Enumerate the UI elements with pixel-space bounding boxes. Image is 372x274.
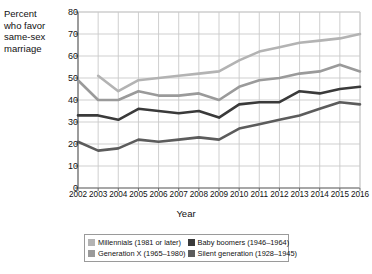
y-tick-label: 80 xyxy=(52,7,78,17)
legend-item-label: Generation X (1965–1980) xyxy=(98,249,186,258)
x-axis-tick-labels: 2002200320042005200620072008200920102011… xyxy=(0,190,372,204)
y-tick-label: 60 xyxy=(52,51,78,61)
y-tick-label: 10 xyxy=(52,161,78,171)
y-axis-title-line-4: marriage xyxy=(4,43,54,55)
legend-item[interactable]: Silent generation (1928–1945) xyxy=(188,248,297,259)
y-tick-label: 20 xyxy=(52,139,78,149)
y-tick-label: 50 xyxy=(52,73,78,83)
legend-swatch-baby-boomers xyxy=(188,239,195,246)
legend-item[interactable]: Generation X (1965–1980) xyxy=(88,248,186,259)
line-chart: Percent who favor same-sex marriage 0102… xyxy=(0,0,372,274)
legend-item[interactable]: Millennials (1981 or later) xyxy=(88,237,186,248)
y-axis-title: Percent who favor same-sex marriage xyxy=(4,8,54,54)
legend-grid: Millennials (1981 or later)Baby boomers … xyxy=(88,237,285,259)
x-tick-label: 2016 xyxy=(345,190,372,199)
y-axis-tick-labels: 01020304050607080 xyxy=(52,0,78,274)
legend-item[interactable]: Baby boomers (1946–1964) xyxy=(188,237,297,248)
y-tick-label: 30 xyxy=(52,117,78,127)
legend-swatch-generation-x xyxy=(88,250,95,257)
legend-item-label: Silent generation (1928–1945) xyxy=(198,249,297,258)
legend-item-label: Baby boomers (1946–1964) xyxy=(198,238,290,247)
y-axis-title-line-3: same-sex xyxy=(4,31,54,43)
legend: Millennials (1981 or later)Baby boomers … xyxy=(84,234,289,262)
y-axis-title-line-2: who favor xyxy=(4,20,54,32)
legend-item-label: Millennials (1981 or later) xyxy=(98,238,181,247)
x-axis-title: Year xyxy=(0,208,372,219)
y-tick-label: 40 xyxy=(52,95,78,105)
y-axis-title-line-1: Percent xyxy=(4,8,54,20)
legend-swatch-millennials xyxy=(88,239,95,246)
legend-swatch-silent-generation xyxy=(188,250,195,257)
y-tick-label: 70 xyxy=(52,29,78,39)
